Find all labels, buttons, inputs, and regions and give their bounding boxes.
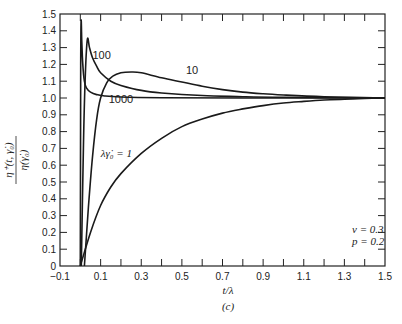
y-tick-label: 0.9	[42, 109, 56, 120]
y-tick-label: 0.6	[42, 160, 56, 171]
curve-lambda-gamma-1	[80, 98, 385, 266]
x-tick-label: 0.5	[175, 271, 189, 282]
annotation-p: p = 0.2	[351, 235, 385, 247]
y-tick-label: 0.7	[42, 143, 56, 154]
y-tick-label: 1.3	[42, 42, 56, 53]
x-tick-label: 0.3	[134, 271, 148, 282]
panel-label: (c)	[222, 300, 235, 313]
y-tick-label: 1.1	[42, 76, 56, 87]
x-tick-label: 0.1	[94, 271, 108, 282]
x-tick-label: 1.3	[337, 271, 351, 282]
annotation-nu: ν = 0.3	[352, 223, 384, 235]
y-tick-label: 0.3	[42, 210, 56, 221]
x-tick-label: 1.1	[297, 271, 311, 282]
y-axis-label: η⁺(t, γ̇₀) η(γ̇₀)	[2, 136, 30, 184]
y-tick-label: 1.0	[42, 93, 56, 104]
y-tick-label: 0.2	[42, 227, 56, 238]
y-tick-label: 0.4	[42, 193, 56, 204]
y-axis-label-denominator: η(γ̇₀)	[17, 149, 30, 170]
y-tick-label: 1.5	[42, 9, 56, 20]
viscosity-growth-chart: 00.10.20.30.40.50.60.70.80.91.01.11.21.3…	[0, 0, 402, 324]
curve-label-1: λγ̇₀ = 1	[100, 147, 132, 159]
x-tick-label: 0.7	[216, 271, 230, 282]
y-tick-label: 1.4	[42, 25, 56, 36]
y-tick-label: 0	[50, 261, 56, 272]
curve-label-10: 10	[186, 64, 198, 76]
curve-1000	[80, 20, 385, 266]
data-curves	[80, 20, 385, 266]
y-tick-label: 1.2	[42, 59, 56, 70]
y-tick-label: 0.1	[42, 244, 56, 255]
curve-label-100: 100	[93, 49, 111, 61]
curve-label-1000: 1000	[109, 93, 133, 105]
y-axis-label-numerator: η⁺(t, γ̇₀)	[2, 142, 15, 178]
y-tick-label: 0.8	[42, 126, 56, 137]
x-tick-label: 0.9	[256, 271, 270, 282]
y-tick-label: 0.5	[42, 177, 56, 188]
x-tick-label: −0.1	[50, 271, 70, 282]
curve-labels: λγ̇₀ = 1101001000	[93, 49, 199, 158]
x-tick-label: 1.5	[378, 271, 392, 282]
x-axis-label: t/λ	[223, 284, 234, 296]
